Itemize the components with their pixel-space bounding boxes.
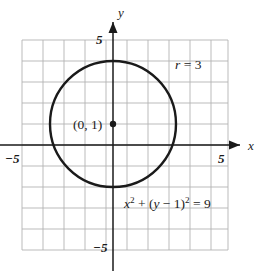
circle-graph-figure: y x 5 −5 5 −5 r = 3 (0, 1) x2 + (y − 1)2… xyxy=(0,0,264,271)
y-axis xyxy=(109,22,118,271)
x-axis-label: x xyxy=(248,139,254,152)
x-tick-label-neg5: −5 xyxy=(5,152,19,165)
equation-equals: = xyxy=(193,196,201,211)
coordinate-plane-svg xyxy=(0,0,264,271)
y-tick-label-neg5: −5 xyxy=(93,241,107,254)
x-axis xyxy=(0,141,240,150)
x-axis-arrowhead xyxy=(229,141,240,150)
y-axis-label: y xyxy=(118,6,124,19)
equation-one: 1 xyxy=(174,196,181,211)
center-point-marker xyxy=(110,121,116,127)
x-tick-label-5: 5 xyxy=(218,152,225,165)
y-axis-arrowhead xyxy=(109,22,118,33)
equation-annotation: x2 + (y − 1)2 = 9 xyxy=(124,197,211,211)
equation-plus: + xyxy=(138,196,146,211)
radius-annotation: r = 3 xyxy=(175,58,201,72)
y-tick-label-5: 5 xyxy=(96,33,103,46)
center-point-label: (0, 1) xyxy=(73,118,102,132)
equation-rhs: 9 xyxy=(204,196,211,211)
radius-value: 3 xyxy=(195,57,202,72)
